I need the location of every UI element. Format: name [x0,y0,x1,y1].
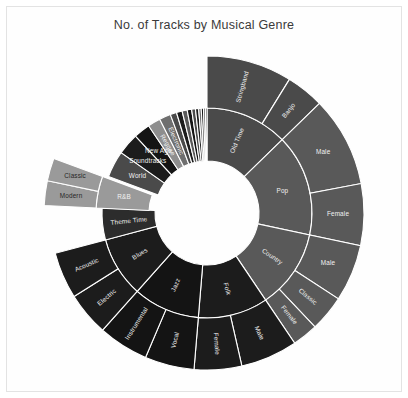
chart-figure: No. of Tracks by Musical Genre Old TimeS… [0,0,408,398]
sunburst-slices [44,56,364,370]
genre-slice-slice-22[interactable] [205,108,207,161]
sunburst-chart[interactable]: Old TimeStringbandBanjoPopMaleFemaleCoun… [0,0,408,398]
